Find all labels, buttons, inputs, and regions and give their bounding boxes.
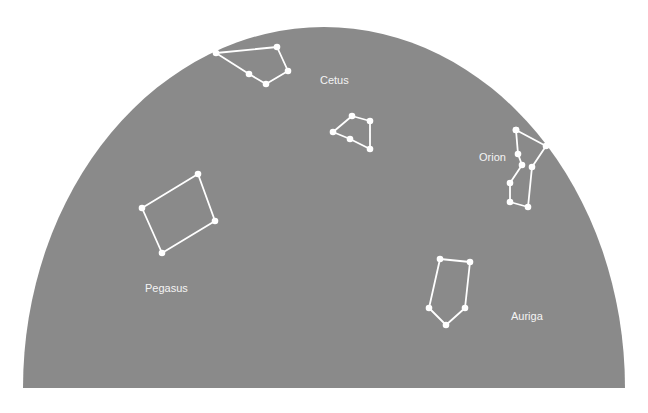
star-icon <box>437 256 444 263</box>
constellation-label-cetus: Cetus <box>320 74 349 86</box>
star-icon <box>462 305 469 312</box>
star-icon <box>246 71 253 78</box>
constellation-label-orion: Orion <box>479 151 506 163</box>
star-icon <box>507 199 514 206</box>
star-icon <box>139 205 146 212</box>
star-icon <box>367 118 374 125</box>
sky-map: CetusOrionPegasusAuriga <box>0 0 648 413</box>
star-icon <box>443 322 450 329</box>
star-icon <box>467 259 474 266</box>
star-icon <box>285 68 292 75</box>
constellation-label-auriga: Auriga <box>511 310 544 322</box>
star-icon <box>274 44 281 51</box>
star-icon <box>349 113 356 120</box>
star-icon <box>426 305 433 312</box>
star-icon <box>519 162 526 169</box>
star-icon <box>515 151 522 158</box>
star-icon <box>159 250 166 257</box>
star-icon <box>347 136 354 143</box>
star-icon <box>525 204 532 211</box>
star-icon <box>507 180 514 187</box>
star-icon <box>330 129 337 136</box>
star-icon <box>213 50 220 57</box>
star-icon <box>195 171 202 178</box>
constellation-label-pegasus: Pegasus <box>145 282 188 294</box>
star-icon <box>212 218 219 225</box>
star-icon <box>529 164 536 171</box>
star-icon <box>513 127 520 134</box>
star-icon <box>263 81 270 88</box>
star-icon <box>543 143 550 150</box>
star-icon <box>367 146 374 153</box>
